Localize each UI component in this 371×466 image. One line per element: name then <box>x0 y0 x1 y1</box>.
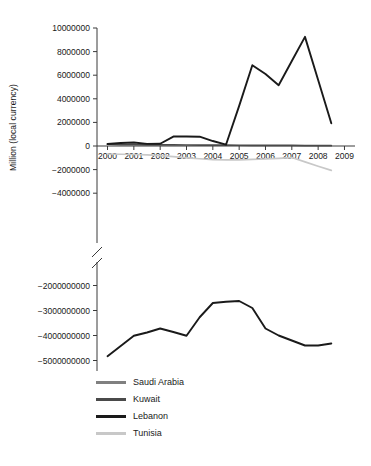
upper-y-tick-label: 6000000 <box>57 70 90 80</box>
upper-y-tick-label: 0 <box>85 141 90 151</box>
chart-legend: Saudi ArabiaKuwaitLebanonTunisia <box>96 374 266 442</box>
lower-y-tick-label: −2000000000 <box>38 281 91 291</box>
lower-y-tick-label: −4000000000 <box>38 331 91 341</box>
legend-label: Kuwait <box>133 395 160 404</box>
legend-swatch-icon <box>96 381 126 384</box>
series-line-lebanon <box>108 37 332 145</box>
chart-figure: Million (local currency) −4000000−200000… <box>0 0 371 466</box>
upper-y-tick-label: −4000000 <box>52 188 90 198</box>
y-axis-label: Million (local currency) <box>8 155 18 171</box>
upper-y-tick-label: 10000000 <box>52 23 90 33</box>
upper-y-tick-label: −2000000 <box>52 165 90 175</box>
legend-label: Lebanon <box>133 412 168 421</box>
x-tick-label: 2003 <box>177 151 196 161</box>
x-tick-label: 2008 <box>309 151 328 161</box>
legend-swatch-icon <box>96 398 126 401</box>
legend-item-kuwait[interactable]: Kuwait <box>96 391 266 408</box>
series-line-kuwait <box>108 144 332 145</box>
legend-swatch-icon <box>96 432 126 435</box>
legend-swatch-icon <box>96 415 126 418</box>
series-line-saudi-arabia <box>108 301 332 356</box>
upper-y-tick-label: 4000000 <box>57 94 90 104</box>
legend-label: Tunisia <box>133 429 162 438</box>
x-tick-label: 2001 <box>124 151 143 161</box>
upper-y-tick-label: 2000000 <box>57 117 90 127</box>
legend-item-saudi-arabia[interactable]: Saudi Arabia <box>96 374 266 391</box>
legend-item-tunisia[interactable]: Tunisia <box>96 425 266 442</box>
upper-y-tick-label: 8000000 <box>57 47 90 57</box>
legend-label: Saudi Arabia <box>133 378 184 387</box>
x-tick-label: 2000 <box>98 151 117 161</box>
lower-y-tick-label: −5000000000 <box>38 356 91 366</box>
lower-y-tick-label: −3000000000 <box>38 306 91 316</box>
x-tick-label: 2009 <box>335 151 354 161</box>
legend-item-lebanon[interactable]: Lebanon <box>96 408 266 425</box>
axis-break-mark <box>92 247 102 257</box>
